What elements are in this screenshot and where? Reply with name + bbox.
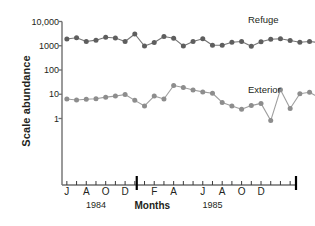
exterior-point [142,103,147,108]
x-tick-label-4: O [99,186,113,197]
refuge-point [113,35,118,40]
refuge-point [152,40,157,45]
series-label-exterior: Exterior [248,84,281,95]
exterior-point [103,95,108,100]
exterior-point [297,91,302,96]
x-tick-label-14: J [196,186,210,197]
refuge-point [191,39,196,44]
x-tick-label-0: J [60,186,74,197]
refuge-point [142,44,147,49]
x-axis-footer: 1984 Months 1985 [0,200,315,216]
refuge-point [161,34,166,39]
year-label-1984: 1984 [76,200,116,210]
refuge-point [181,43,186,48]
series-label-refuge: Refuge [248,14,279,25]
chart-figure: Scale abundance 10,0001000100101 JAODFAJ… [0,0,315,226]
exterior-point [200,89,205,94]
refuge-point [103,35,108,40]
x-tick-label-11: A [167,186,181,197]
exterior-point [259,101,264,106]
x-tick-label-18: O [235,186,249,197]
exterior-point [229,103,234,108]
exterior-point [268,118,273,123]
exterior-point [181,85,186,90]
x-tick-label-20: D [254,186,268,197]
exterior-point [171,83,176,88]
exterior-point [74,97,79,102]
exterior-point [239,107,244,112]
refuge-point [297,40,302,45]
x-tick-label-2: A [79,186,93,197]
exterior-point [113,94,118,99]
refuge-point [210,43,215,48]
refuge-point [259,39,264,44]
exterior-point [307,90,312,95]
x-axis-tick-labels: JAODFAJAOD [0,186,315,200]
exterior-point [123,92,128,97]
refuge-point [307,39,312,44]
refuge-point [288,38,293,43]
exterior-point [220,100,225,105]
refuge-point [249,44,254,49]
refuge-point [64,36,69,41]
exterior-point [152,94,157,99]
exterior-point [288,106,293,111]
refuge-point [278,36,283,41]
x-tick-label-9: F [147,186,161,197]
exterior-point [64,96,69,101]
exterior-point [249,103,254,108]
exterior-point [161,96,166,101]
refuge-point [171,36,176,41]
refuge-point [84,39,89,44]
refuge-point [229,40,234,45]
exterior-point [132,98,137,103]
x-tick-label-6: D [118,186,132,197]
refuge-point [132,32,137,37]
refuge-point [268,37,273,42]
refuge-point [93,38,98,43]
refuge-point [239,39,244,44]
refuge-point [74,35,79,40]
refuge-point [220,43,225,48]
exterior-point [210,91,215,96]
year-label-1985: 1985 [192,200,232,210]
refuge-point [123,39,128,44]
refuge-point [200,36,205,41]
exterior-point [84,97,89,102]
x-axis-title: Months [122,200,182,211]
x-tick-label-16: A [215,186,229,197]
exterior-point [191,87,196,92]
exterior-point [93,96,98,101]
